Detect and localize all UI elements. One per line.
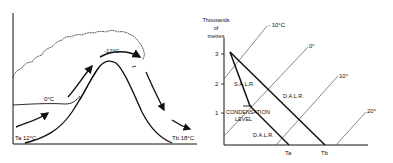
isotherm-label-20: 20°	[367, 108, 377, 114]
dalr-lower-label: D.A.L.R.	[253, 132, 274, 138]
condensation-label-line2: LEVEL	[235, 116, 252, 122]
airflow-arrow-icon	[16, 113, 48, 127]
salr-label: S.A.L.R.	[234, 81, 255, 87]
ta-axis-label: Ta	[285, 150, 292, 156]
dalr-descent-line	[230, 52, 325, 145]
isotherm-label-minus10: - 10°C	[268, 22, 286, 28]
ta-label: Ta 12°C	[15, 135, 37, 141]
foehn-diagram: Ta 12°C Tb 18°C 0°C -12°C 3 2 1 Thousand…	[0, 0, 393, 163]
windward-flow-line	[80, 68, 98, 100]
airflow-arrow-icon	[68, 66, 92, 97]
y-axis-label-line1: Thousands	[202, 17, 229, 23]
condensation-label-line1: CONDENSATION	[226, 109, 270, 115]
isotherm-10	[276, 76, 338, 145]
dalr-upper-label: D.A.L.R.	[283, 93, 304, 99]
airflow-arrow-icon	[172, 120, 190, 129]
isotherm-label-10: 10°	[339, 73, 349, 79]
salr-line	[230, 52, 250, 106]
summit-temp-label: -12°C	[104, 48, 120, 54]
y-axis-label-line3: metres	[208, 33, 225, 39]
tb-axis-label: Tb	[321, 150, 329, 156]
leeward-tick	[132, 66, 136, 67]
y-tick-2: 2	[215, 81, 219, 87]
y-tick-3: 3	[215, 51, 219, 57]
airflow-arrow-icon	[146, 72, 164, 110]
y-tick-1: 1	[215, 110, 219, 116]
mountain-profile-icon	[25, 61, 172, 143]
cloud-icon	[13, 31, 144, 79]
tb-label: Tb 18°C	[172, 135, 195, 141]
freezing-level-label: 0°C	[44, 96, 55, 102]
y-axis-label-line2: of	[214, 25, 219, 31]
left-panel: Ta 12°C Tb 18°C 0°C -12°C	[13, 13, 197, 144]
right-panel: 3 2 1 Thousands of metres - 10°C 0° 10° …	[202, 17, 376, 156]
isotherm-20	[336, 112, 366, 145]
isotherm-label-0: 0°	[309, 43, 315, 49]
